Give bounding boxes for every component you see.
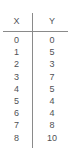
table-row: 6 4 [0, 107, 71, 119]
cell-x: 2 [0, 58, 33, 70]
cell-x: 3 [0, 71, 33, 83]
table-row: 3 7 [0, 71, 71, 83]
cell-y: 0 [33, 34, 71, 46]
cell-y: 7 [33, 71, 71, 83]
cell-x: 0 [0, 34, 33, 46]
cell-y: 10 [33, 132, 71, 144]
cell-y: 5 [33, 83, 71, 95]
table-row: 5 4 [0, 95, 71, 107]
cell-x: 1 [0, 46, 33, 58]
column-header-y: Y [33, 14, 71, 28]
table-body: 0 0 1 5 2 3 3 7 4 5 5 4 6 4 7 8 [0, 34, 71, 144]
cell-x: 7 [0, 119, 33, 131]
table-row: 2 3 [0, 58, 71, 70]
cell-x: 4 [0, 83, 33, 95]
table-row: 0 0 [0, 34, 71, 46]
cell-x: 5 [0, 95, 33, 107]
cell-y: 4 [33, 95, 71, 107]
table-row: 4 5 [0, 83, 71, 95]
data-table: X Y 0 0 1 5 2 3 3 7 4 5 5 4 6 4 [0, 0, 71, 154]
table-row: 1 5 [0, 46, 71, 58]
cell-y: 5 [33, 46, 71, 58]
header-rule [3, 31, 68, 32]
column-header-x: X [0, 14, 33, 28]
table-row: 7 8 [0, 119, 71, 131]
cell-x: 8 [0, 132, 33, 144]
cell-x: 6 [0, 107, 33, 119]
table-row: 8 10 [0, 132, 71, 144]
cell-y: 3 [33, 58, 71, 70]
cell-y: 8 [33, 119, 71, 131]
table-header-row: X Y [0, 14, 71, 28]
cell-y: 4 [33, 107, 71, 119]
